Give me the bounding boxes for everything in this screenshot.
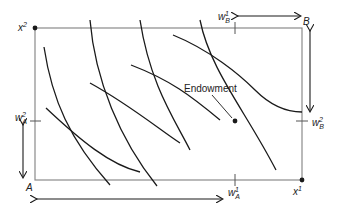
edgeworth-box-frame [35, 28, 302, 180]
b-indifference-curve-2 [90, 83, 180, 143]
wb1-label-sub: B [225, 17, 230, 24]
endowment-point [233, 119, 238, 124]
x2-label-sup: 2 [23, 21, 27, 28]
wa2-label-sub: A [22, 118, 27, 125]
endowment-label: Endowment [184, 84, 237, 94]
wa2-label: wA2 [15, 111, 26, 125]
wa1-label-sup: 1 [235, 186, 239, 193]
b-indifference-curve-4 [173, 35, 302, 112]
consumer-a-indifference-curves [44, 20, 276, 186]
origin-a-label: A [26, 183, 33, 193]
x1-label: x1 [293, 185, 302, 197]
origin-b-label: B [303, 17, 310, 27]
wb2-label: wB2 [312, 116, 323, 130]
edgeworth-box-diagram [0, 0, 337, 208]
wa2-label-sup: 2 [22, 111, 26, 118]
a-indifference-curve-4 [200, 20, 276, 170]
wb1-label: wB1 [218, 10, 229, 24]
x2-corner-dot [33, 26, 38, 31]
wb2-label-sup: 2 [319, 116, 323, 123]
wb2-label-sub: B [319, 123, 324, 130]
x1-label-sup: 1 [298, 185, 302, 192]
wb1-label-sup: 1 [225, 10, 229, 17]
wa1-label: wA1 [228, 186, 239, 200]
x1-corner-dot [300, 178, 305, 183]
x2-label: x2 [18, 21, 27, 33]
wa1-label-sub: A [235, 193, 240, 200]
endowment-pointer [212, 95, 232, 118]
